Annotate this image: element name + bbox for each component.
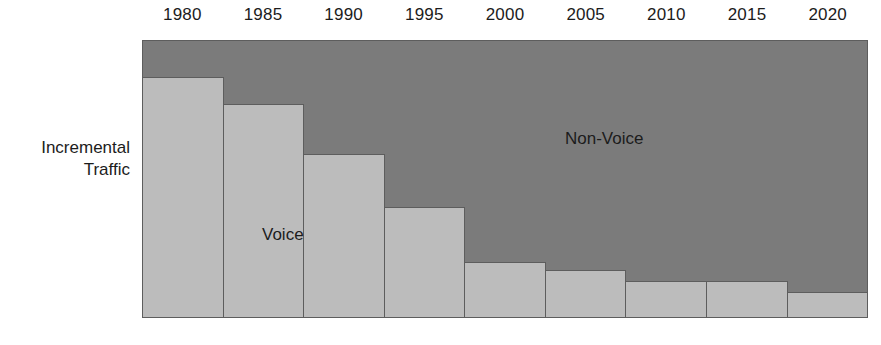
y-axis-title-line2: Traffic bbox=[0, 159, 130, 181]
y-axis-title: Incremental Traffic bbox=[0, 137, 130, 181]
bar-2005 bbox=[546, 270, 627, 317]
series-label-non-voice: Non-Voice bbox=[565, 129, 643, 149]
x-axis-tick-2005: 2005 bbox=[545, 2, 626, 32]
bar-1980 bbox=[143, 77, 224, 317]
x-axis-tick-1985: 1985 bbox=[223, 2, 304, 32]
x-axis-tick-1980: 1980 bbox=[142, 2, 223, 32]
x-axis-tick-1995: 1995 bbox=[384, 2, 465, 32]
bar-2015 bbox=[707, 281, 788, 317]
bar-2020 bbox=[788, 292, 868, 317]
bar-1985 bbox=[224, 104, 305, 317]
y-axis-title-line1: Incremental bbox=[0, 137, 130, 159]
x-axis-tick-1990: 1990 bbox=[303, 2, 384, 32]
incremental-traffic-chart: 1980 1985 1990 1995 2000 2005 2010 2015 … bbox=[0, 0, 881, 345]
bar-2010 bbox=[626, 281, 707, 317]
x-axis-tick-2020: 2020 bbox=[787, 2, 868, 32]
x-axis-tick-2000: 2000 bbox=[465, 2, 546, 32]
x-axis-tick-2010: 2010 bbox=[626, 2, 707, 32]
voice-bar-group bbox=[143, 41, 867, 317]
bar-1995 bbox=[385, 207, 466, 317]
plot-area: Voice Non-Voice bbox=[142, 40, 868, 318]
x-axis-year-labels: 1980 1985 1990 1995 2000 2005 2010 2015 … bbox=[142, 2, 868, 32]
bar-2000 bbox=[465, 262, 546, 317]
series-label-voice: Voice bbox=[262, 225, 304, 245]
bar-1990 bbox=[304, 154, 385, 317]
x-axis-tick-2015: 2015 bbox=[707, 2, 788, 32]
